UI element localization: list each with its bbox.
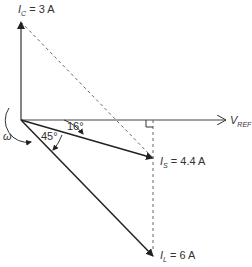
right-angle-marker bbox=[146, 120, 153, 127]
phasor-diagram: 16° 45° ω IC = 3 A VREF IS = 4.4 A IL = … bbox=[0, 0, 252, 267]
ic-label: IC = 3 A bbox=[18, 3, 55, 17]
angle-label-16: 16° bbox=[67, 120, 84, 132]
angle-label-45: 45° bbox=[41, 130, 58, 142]
omega-label: ω bbox=[3, 130, 12, 142]
vref-label: VREF bbox=[230, 114, 252, 128]
is-label: IS = 4.4 A bbox=[160, 155, 206, 169]
il-label: IL = 6 A bbox=[160, 249, 196, 263]
